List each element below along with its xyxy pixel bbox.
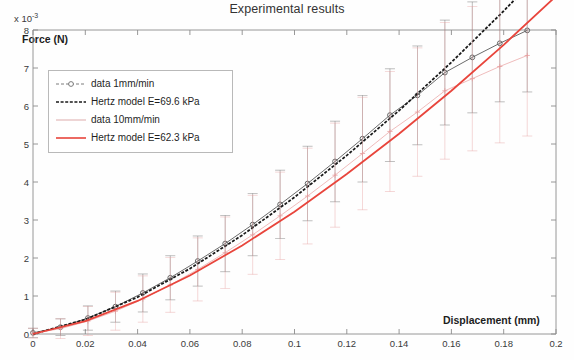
series-3 — [33, 0, 556, 334]
x-tick-label: 0.16 — [442, 338, 461, 349]
y-axis-multiplier: x 10-3 — [14, 12, 38, 24]
y-tick-label: 5 — [3, 139, 29, 150]
legend-item-label: data 1mm/min — [91, 77, 154, 91]
legend-item[interactable]: Hertz model E=62.3 kPa — [54, 129, 227, 147]
x-tick-label: 0.2 — [549, 338, 562, 349]
x-tick-label: 0.14 — [390, 338, 409, 349]
legend-item-label: Hertz model E=62.3 kPa — [91, 131, 200, 145]
legend-swatch — [54, 131, 88, 145]
x-tick-label: 0.06 — [181, 338, 200, 349]
x-tick-label: 0.02 — [76, 338, 95, 349]
x-tick-label: 0 — [30, 338, 35, 349]
chart-legend: data 1mm/minHertz model E=69.6 kPadata 1… — [48, 70, 233, 153]
y-tick-label: 2 — [3, 253, 29, 264]
legend-item[interactable]: data 1mm/min — [54, 75, 227, 93]
x-tick-label: 0.08 — [233, 338, 252, 349]
y-tick-label: 6 — [3, 101, 29, 112]
legend-swatch — [54, 113, 88, 127]
y-axis-multiplier-exponent: -3 — [32, 12, 38, 19]
legend-item-label: Hertz model E=69.6 kPa — [91, 95, 200, 109]
legend-marker-icon — [69, 82, 74, 87]
legend-swatch — [54, 77, 88, 91]
data-series-group — [28, 0, 556, 339]
series-0 — [28, 0, 532, 337]
legend-swatch — [54, 95, 88, 109]
legend-item-label: data 10mm/min — [91, 113, 160, 127]
y-tick-label: 7 — [3, 63, 29, 74]
series-line — [33, 0, 556, 334]
x-tick-label: 0.04 — [128, 338, 147, 349]
y-tick-label: 1 — [3, 291, 29, 302]
legend-item[interactable]: Hertz model E=69.6 kPa — [54, 93, 227, 111]
series-1 — [33, 0, 556, 334]
data-point-marker — [470, 76, 475, 81]
series-2 — [28, 0, 532, 339]
x-tick-label: 0.1 — [288, 338, 301, 349]
legend-item[interactable]: data 10mm/min — [54, 111, 227, 129]
chart-title: Experimental results — [0, 2, 574, 16]
x-tick-label: 0.12 — [338, 338, 357, 349]
y-tick-label: 4 — [3, 177, 29, 188]
y-tick-label: 3 — [3, 215, 29, 226]
series-line — [33, 0, 556, 334]
data-point-marker — [497, 64, 502, 69]
y-tick-label: 8 — [3, 25, 29, 36]
x-tick-label: 0.18 — [494, 338, 513, 349]
data-point-marker — [525, 53, 530, 58]
figure-canvas: Experimental results x 10-3 Force (N) Di… — [0, 0, 574, 360]
y-tick-label: 0 — [3, 329, 29, 340]
y-axis-multiplier-base: x 10 — [14, 13, 32, 24]
